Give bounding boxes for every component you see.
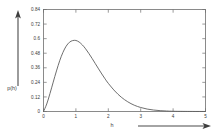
y-axis-title: p(h) <box>7 85 17 91</box>
data-curve-ph <box>44 40 206 111</box>
y-tick-label: 0.6 <box>34 36 41 41</box>
x-axis-tick-labels: 012345 <box>42 114 207 119</box>
y-tick-label: 0.12 <box>31 95 40 100</box>
y-tick-label: 0.72 <box>31 22 40 27</box>
x-tick-label: 0 <box>42 114 45 119</box>
y-tick-label: 0 <box>37 109 40 114</box>
chart-figure: 00.120.240.360.480.60.720.84 012345 h p(… <box>0 0 219 137</box>
x-tick-label: 3 <box>139 114 142 119</box>
y-tick-label: 0.48 <box>31 51 40 56</box>
y-tick-label: 0.84 <box>31 7 40 12</box>
plot-frame <box>44 10 206 112</box>
x-tick-label: 4 <box>172 114 175 119</box>
y-axis-tick-marks <box>44 10 206 112</box>
chart-svg: 00.120.240.360.480.60.720.84 012345 h p(… <box>0 0 219 137</box>
x-axis-title: h <box>111 122 114 128</box>
y-axis-tick-labels: 00.120.240.360.480.60.720.84 <box>31 7 40 114</box>
x-tick-label: 5 <box>204 114 207 119</box>
horizontal-right-arrow <box>138 123 211 129</box>
x-tick-label: 1 <box>75 114 78 119</box>
y-tick-label: 0.36 <box>31 65 40 70</box>
y-tick-label: 0.24 <box>31 80 40 85</box>
x-axis-tick-marks <box>44 10 206 112</box>
vertical-up-arrow <box>15 10 21 86</box>
x-tick-label: 2 <box>107 114 110 119</box>
